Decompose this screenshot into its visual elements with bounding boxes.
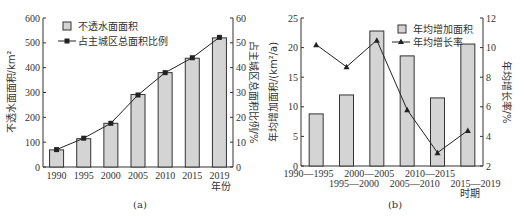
y-right-tick-label: 50 [236,37,246,48]
y-right-tick-label: 6 [486,101,491,112]
y-tick-label: 400 [25,62,40,73]
y-right-tick-label: 20 [236,112,246,123]
legend-line-label: 年均增长率 [413,36,463,48]
x-tick-label: 1995—2000 [329,178,379,189]
y-right-tick-label: 60 [236,13,246,24]
square-marker [108,121,113,126]
chart-a: 0100200300400500600 0102030405060 199019… [6,13,260,211]
y-right-tick-label: 30 [236,87,246,98]
legend-bar-swatch [63,22,71,30]
x-tick-label: 2005 [128,170,148,181]
y-right-tick-label: 40 [236,62,246,73]
chart-b-caption: (b) [388,199,402,210]
series-line [316,40,468,152]
bar [77,139,91,167]
chart-a-bars [50,38,227,167]
square-marker [217,35,222,40]
triangle-marker [313,42,319,48]
bar [461,44,475,166]
x-tick-label: 2015 [182,170,202,181]
chart-b-y-axis-title: 年均增加面积/(km²/a) [267,42,279,142]
bar [212,38,226,167]
x-tick-label: 2019 [209,170,229,181]
y-right-tick-label: 4 [486,131,491,142]
y-tick-label: 200 [25,112,40,123]
square-marker [54,147,59,152]
bar [104,123,118,167]
chart-a-y-axis-title: 不透水面面积/km² [6,51,17,134]
legend-bar-swatch [398,25,406,33]
chart-b-y-axis-right-title: 年均增长率/% [501,61,513,124]
bar [50,150,64,167]
chart-b: 0510152025 24681012 1990—19951995—200020… [267,13,513,211]
y-tick-label: 500 [25,37,40,48]
y-tick-label: 100 [25,137,40,148]
bar [158,73,172,167]
chart-a-x-axis-ticks: 1990199520002005201020152019 [47,170,230,181]
bar [131,94,145,167]
chart-a-x-axis-title: 年份 [211,180,231,192]
x-tick-label: 2000 [101,170,121,181]
x-tick-label: 2005—2010 [390,178,440,189]
x-tick-label: 2010—2015 [405,168,455,179]
y-tick-label: 300 [25,87,40,98]
y-tick-label: 25 [288,13,298,24]
x-tick-label: 1995 [74,170,94,181]
figure-canvas: 0100200300400500600 0102030405060 199019… [0,0,521,218]
square-marker [136,92,141,97]
x-tick-label: 1990 [47,170,67,181]
chart-a-caption: (a) [133,199,147,210]
x-tick-label: 2010 [155,170,175,181]
x-tick-label: 2000—2005 [344,168,394,179]
chart-a-right-axis-ticks: 0102030405060 [230,13,246,173]
chart-a-legend: 不透水面面积 占主城区总面积比例 [58,21,168,47]
square-marker [163,70,168,75]
bar [185,58,199,167]
bar [340,95,354,166]
legend-bar-label: 不透水面面积 [78,21,138,32]
bar [431,98,445,166]
legend-line-label: 占主城区总面积比例 [78,35,168,47]
legend-square-marker-icon [65,39,70,44]
chart-b-right-axis-ticks: 24681012 [480,13,496,172]
square-marker [190,55,195,60]
y-right-tick-label: 8 [486,72,491,83]
y-right-tick-label: 2 [486,161,491,172]
y-tick-label: 5 [293,131,298,142]
y-right-tick-label: 10 [236,137,246,148]
y-right-tick-label: 12 [486,13,496,24]
chart-b-x-axis-ticks: 1990—19951995—20002000—20052005—20102010… [284,168,501,189]
x-tick-label: 1990—1995 [284,168,334,179]
square-marker [81,136,86,141]
chart-b-line-series [313,37,471,155]
y-tick-label: 10 [288,101,298,112]
legend-triangle-marker-icon [398,39,404,45]
chart-b-bars [309,31,475,166]
y-tick-label: 20 [288,42,298,53]
y-tick-label: 600 [25,13,40,24]
bar [309,114,323,166]
chart-b-x-axis-title: 时期 [460,188,480,199]
y-right-tick-label: 0 [236,162,241,173]
chart-a-y-axis-right-title: 占主城区总面积比例/% [248,41,260,144]
legend-bar-label: 年均增加面积 [413,23,473,35]
y-tick-label: 15 [288,72,298,83]
chart-b-legend: 年均增加面积 年均增长率 [392,23,473,48]
y-tick-label: 0 [35,162,40,173]
chart-b-left-axis-ticks: 0510152025 [288,13,304,172]
y-right-tick-label: 10 [486,42,496,53]
